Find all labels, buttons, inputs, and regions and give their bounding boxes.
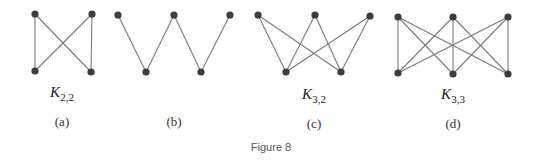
graph-d-sublabel: (d)	[445, 116, 460, 132]
graph-b-vertex	[170, 11, 177, 18]
graph-a-vertex	[87, 68, 94, 75]
graph-c-vertex	[366, 12, 373, 19]
graph-b-vertex	[197, 68, 204, 75]
graph-c-edge	[258, 15, 286, 72]
graph-c-vertex	[282, 68, 289, 75]
graph-c-name: K3,2	[302, 86, 326, 105]
graph-d-vertex	[394, 69, 401, 76]
graph-d-vertex	[449, 70, 456, 77]
graph-d-name-subscript: 3,3	[451, 93, 465, 105]
graphs-canvas	[0, 0, 538, 163]
graph-d-name-main: K	[441, 86, 451, 102]
graph-d-vertex	[504, 70, 511, 77]
graph-d-vertex	[449, 13, 456, 20]
graph-c-sublabel: (c)	[307, 116, 321, 132]
graph-c-edge	[341, 16, 370, 72]
graph-a-vertex	[31, 10, 38, 17]
graph-b-edge	[174, 15, 201, 72]
graph-a-vertex	[88, 10, 95, 17]
graph-c-name-main: K	[302, 86, 312, 102]
graph-a-edge	[91, 14, 92, 72]
graph-b-vertex	[142, 68, 149, 75]
graph-b-vertex	[226, 11, 233, 18]
graph-b-vertex	[114, 11, 121, 18]
graph-a-sublabel: (a)	[55, 114, 69, 130]
graph-d-vertex	[394, 13, 401, 20]
vertices-layer	[31, 10, 511, 77]
graph-a-name: K2,2	[50, 84, 74, 103]
graph-c-vertex	[254, 11, 261, 18]
graph-b-edge	[201, 15, 230, 72]
graph-c-vertex	[337, 68, 344, 75]
graph-a-vertex	[31, 67, 38, 74]
graph-c-name-subscript: 3,2	[312, 93, 326, 105]
graph-a-name-main: K	[50, 84, 60, 100]
graph-d-vertex	[504, 13, 511, 20]
figure-8: K2,2 (a) (b) K3,2 (c) K3,3 (d) Figure 8	[0, 0, 538, 163]
graph-d-name: K3,3	[441, 86, 465, 105]
figure-caption: Figure 8	[251, 141, 291, 153]
graph-b-sublabel: (b)	[166, 114, 181, 130]
edges-layer	[35, 14, 508, 74]
graph-c-edge	[286, 15, 315, 72]
graph-c-vertex	[311, 11, 318, 18]
graph-a-name-subscript: 2,2	[60, 91, 74, 103]
graph-b-edge	[146, 15, 174, 72]
graph-b-edge	[118, 15, 146, 72]
